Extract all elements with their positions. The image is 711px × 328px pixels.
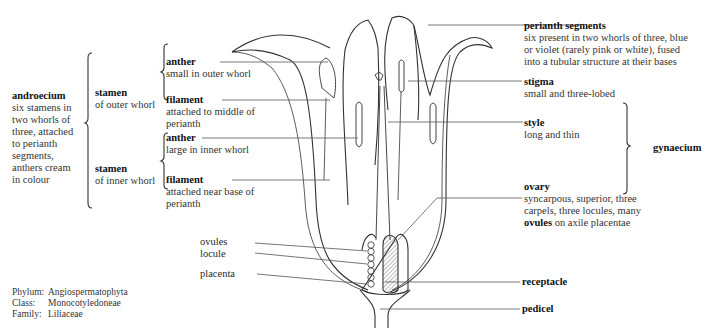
- anther-inner-label: anther large in inner whorl: [166, 132, 249, 156]
- stamen-outer-label: stamen of outer whorl: [95, 87, 155, 111]
- style-label: style long and thin: [524, 117, 579, 141]
- ovules-label: ovules: [200, 236, 227, 248]
- pedicel-label: pedicel: [522, 303, 554, 315]
- ovary-label: ovary syncarpous, superior, three carpel…: [524, 181, 641, 229]
- taxonomy-block: Phylum:Angiospermatophyta Class:Monocoty…: [12, 287, 128, 320]
- receptacle-label: receptacle: [522, 276, 567, 288]
- androecium-brace: [85, 53, 92, 208]
- gynaecium-label: gynaecium: [653, 142, 701, 154]
- taxonomy-family: Family:Liliaceae: [12, 309, 128, 320]
- stamen-inner-label: stamen of inner whorl: [95, 163, 155, 187]
- locule-label: locule: [200, 248, 226, 260]
- filament-inner-label: filament attached near base of perianth: [166, 174, 254, 210]
- androecium-label: androecium six stamens in two whorls of …: [12, 90, 73, 186]
- stigma-label: stigma small and three-lobed: [524, 76, 615, 100]
- androecium-title: androecium: [12, 90, 65, 101]
- placenta-label: placenta: [200, 268, 235, 280]
- filament-outer-label: filament attached to middle of perianth: [166, 94, 255, 130]
- anther-outer-label: anther small in outer whorl: [166, 56, 251, 80]
- taxonomy-class: Class:Monocotyledoneae: [12, 298, 128, 309]
- taxonomy-phylum: Phylum:Angiospermatophyta: [12, 287, 128, 298]
- perianth-segments-label: perianth segments six present in two who…: [524, 20, 688, 68]
